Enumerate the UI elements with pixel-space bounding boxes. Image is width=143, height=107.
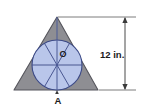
- dimension-label: 12 in.: [100, 49, 124, 60]
- vertex-point-label: A: [55, 95, 62, 106]
- dimension-arrow-top: [122, 17, 127, 23]
- geometry-diagram: O A 12 in.: [0, 0, 143, 107]
- geometry-figure: O A 12 in.: [0, 0, 143, 107]
- base-tick-marker: [55, 90, 59, 94]
- dimension-arrow-bottom: [122, 84, 127, 90]
- center-point-label: O: [59, 49, 66, 59]
